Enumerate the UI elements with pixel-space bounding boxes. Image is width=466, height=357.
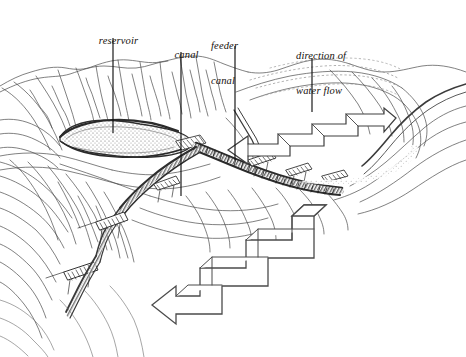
bottom-slope-contours bbox=[0, 286, 144, 357]
label-direction-of-water-flow: direction of water flow bbox=[296, 27, 374, 119]
label-canal-text: canal bbox=[175, 49, 199, 60]
label-direction-line2: water flow bbox=[296, 85, 374, 97]
label-feeder-canal: feeder canal bbox=[211, 17, 271, 109]
lower-flow-arrow bbox=[152, 205, 326, 324]
label-reservoir: reservoir bbox=[80, 23, 146, 58]
reservoir-basin bbox=[60, 120, 192, 157]
diagram-canvas: reservoir canal feeder canal direction o… bbox=[0, 0, 466, 357]
canal-vegetation-band bbox=[300, 145, 418, 185]
label-direction-line1: direction of bbox=[296, 50, 374, 62]
label-canal: canal bbox=[155, 37, 207, 72]
label-feeder-canal-line1: feeder bbox=[211, 40, 271, 52]
label-feeder-canal-line2: canal bbox=[211, 75, 271, 87]
label-reservoir-text: reservoir bbox=[99, 35, 138, 46]
midground-contours bbox=[132, 188, 348, 252]
